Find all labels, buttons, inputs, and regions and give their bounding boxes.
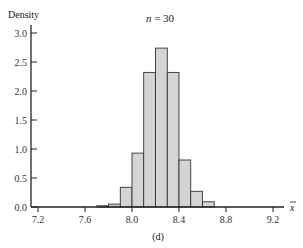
y-tick-label: 0.5 xyxy=(15,173,28,184)
x-tick-label: 8.8 xyxy=(220,214,233,225)
x-axis-ticks: 7.27.68.08.48.89.2 xyxy=(32,207,280,225)
histogram-bar xyxy=(203,202,215,207)
y-tick-label: 2.0 xyxy=(15,86,28,97)
histogram-bar xyxy=(179,160,191,207)
histogram-bar xyxy=(132,153,144,207)
histogram-bar xyxy=(120,187,132,207)
x-tick-label: 9.2 xyxy=(267,214,280,225)
histogram-bar xyxy=(156,48,168,207)
x-tick-label: 8.4 xyxy=(173,214,186,225)
histogram-bar xyxy=(167,72,179,207)
y-tick-label: 1.0 xyxy=(15,144,28,155)
y-tick-label: 0.0 xyxy=(15,202,28,213)
figure-caption: (d) xyxy=(152,231,164,243)
histogram-chart: Density n = 30 0.00.51.01.52.02.53.0 7.2… xyxy=(0,0,303,248)
y-axis-ticks: 0.00.51.01.52.02.53.0 xyxy=(15,28,38,213)
y-tick-label: 2.5 xyxy=(15,57,28,68)
sample-size-label: n = 30 xyxy=(146,12,175,24)
y-tick-label: 1.5 xyxy=(15,115,28,126)
histogram-bar xyxy=(144,72,156,207)
x-tick-label: 7.6 xyxy=(79,214,92,225)
y-tick-label: 3.0 xyxy=(15,28,28,39)
x-axis-title: x xyxy=(289,202,295,213)
histogram-bars xyxy=(97,48,214,207)
histogram-bar xyxy=(191,191,203,207)
y-axis-title: Density xyxy=(8,9,39,20)
x-tick-label: 7.2 xyxy=(32,214,45,225)
x-tick-label: 8.0 xyxy=(126,214,139,225)
